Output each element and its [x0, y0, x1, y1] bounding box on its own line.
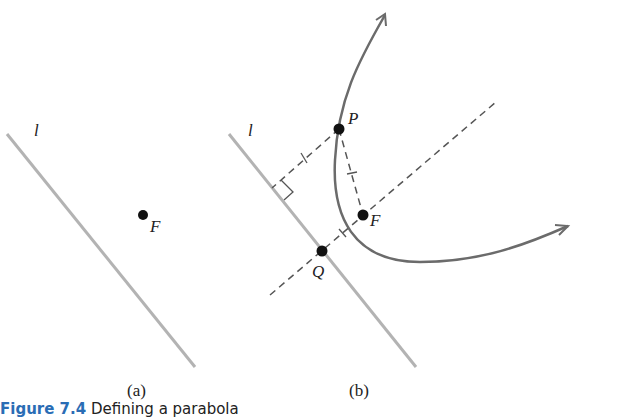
pf-dashed-line	[339, 129, 363, 215]
focus-label-a: F	[150, 218, 160, 235]
sublabel-b: (b)	[349, 382, 369, 399]
point-q	[317, 246, 328, 257]
right-angle-marker	[281, 180, 293, 200]
focus-label-b: F	[370, 212, 380, 229]
point-p-label: P	[348, 110, 358, 127]
line-label-b: l	[248, 122, 253, 139]
directrix-line-a	[7, 134, 195, 367]
figure-caption: Figure 7.4 Defining a parabola	[0, 402, 239, 417]
line-label-a: l	[34, 122, 39, 139]
sublabel-a: (a)	[127, 382, 146, 399]
focus-point-b	[358, 210, 369, 221]
parabola-figure	[0, 0, 634, 417]
caption-label: Figure 7.4	[0, 400, 86, 417]
point-q-label: Q	[312, 263, 324, 280]
focus-point-a	[138, 210, 148, 220]
point-p	[334, 124, 345, 135]
perpendicular-dashed-line	[272, 129, 339, 188]
caption-text: Defining a parabola	[86, 400, 239, 417]
tick-mark-2	[347, 172, 357, 174]
axis-dashed-line	[270, 102, 496, 295]
